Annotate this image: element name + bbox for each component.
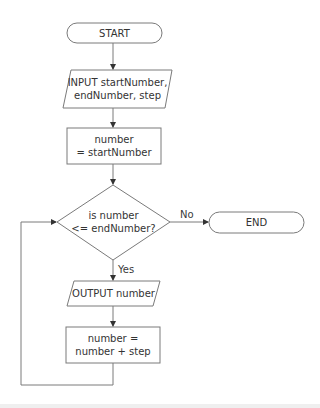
edge-label-no: No — [180, 208, 194, 221]
start-label: START — [67, 23, 162, 43]
input-label: INPUT startNumber, endNumber, step — [63, 70, 172, 108]
decision-label: is number <= endNumber? — [57, 203, 170, 241]
end-label: END — [209, 212, 304, 233]
increment-label: number = number + step — [66, 327, 160, 363]
init-label: number = startNumber — [67, 128, 161, 164]
bottom-band — [0, 404, 320, 408]
edge-label-yes: Yes — [118, 263, 134, 276]
output-label: OUTPUT number — [67, 281, 160, 306]
